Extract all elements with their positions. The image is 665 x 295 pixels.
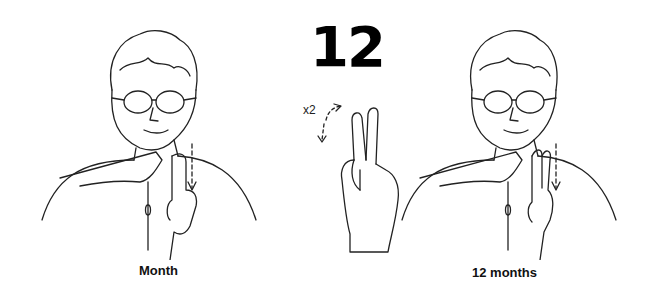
caption-12-months: 12 months (472, 265, 537, 280)
caption-month: Month (139, 263, 178, 278)
hand-v-shape (330, 100, 410, 260)
signer-figure-12-months (400, 20, 630, 260)
number-title: 12 (310, 14, 384, 79)
signer-figure-month (40, 20, 270, 260)
